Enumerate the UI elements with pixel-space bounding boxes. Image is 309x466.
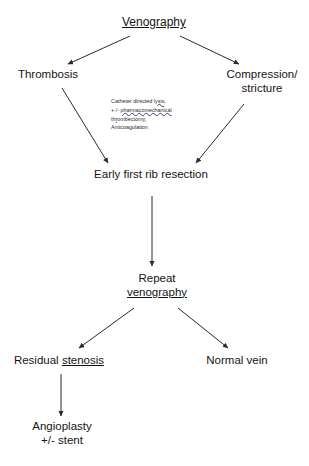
node-thrombosis-label: Thrombosis: [2, 68, 94, 82]
node-angioplasty-label-line1: Angioplasty: [14, 420, 110, 434]
annotation-line-4: Anticoagulation: [111, 123, 203, 132]
node-thrombosis: Thrombosis: [2, 68, 94, 82]
node-repeat-label-line2: venography: [112, 286, 202, 300]
annotation-line-2-marked: pharmacomechanical: [120, 107, 171, 113]
node-compression-label-line2: stricture: [216, 82, 308, 96]
edge-repeat-venography-residual-stenosis: [79, 308, 134, 348]
node-repeat-venography: Repeat venography: [112, 272, 202, 299]
node-residual-stenosis-label-plain: Residual: [14, 354, 62, 366]
node-normal-vein-label: Normal vein: [192, 354, 282, 368]
node-early-rib-label: Early first rib resection: [86, 168, 216, 182]
node-venography: Venography: [104, 15, 204, 29]
annotation-line-2: + /- pharmacomechanical: [111, 106, 203, 115]
node-residual-stenosis-label-underlined: stenosis: [62, 354, 104, 366]
annotation-line-1: Catheter directed lysis,: [111, 97, 203, 106]
edge-thrombosis-early-rib: [62, 88, 108, 163]
node-compression-label-line1: Compression/: [216, 68, 308, 82]
annotation-line-3: thrombectomy,: [111, 115, 203, 124]
node-normal-vein: Normal vein: [192, 354, 282, 368]
annotation-line-1-marked: lysis,: [154, 98, 166, 104]
node-compression-stricture: Compression/ stricture: [216, 68, 308, 95]
edge-venography-thrombosis: [68, 36, 130, 64]
node-residual-stenosis-label: Residual stenosis: [4, 354, 114, 368]
node-angioplasty-stent: Angioplasty +/- stent: [14, 420, 110, 447]
edge-compression-early-rib: [196, 104, 244, 163]
node-repeat-label-line1: Repeat: [112, 272, 202, 286]
flowchart-canvas: Venography Thrombosis Compression/ stric…: [0, 0, 309, 466]
annotation-line-1-plain: Catheter directed: [111, 98, 154, 104]
edge-repeat-venography-normal-vein: [178, 308, 228, 348]
edge-venography-compression: [180, 36, 239, 64]
annotation-thrombosis-treatment: Catheter directed lysis, + /- pharmacome…: [111, 97, 203, 132]
node-angioplasty-label-line2: +/- stent: [14, 434, 110, 448]
node-residual-stenosis: Residual stenosis: [4, 354, 114, 368]
node-venography-label: Venography: [104, 15, 204, 29]
node-early-first-rib-resection: Early first rib resection: [86, 168, 216, 182]
